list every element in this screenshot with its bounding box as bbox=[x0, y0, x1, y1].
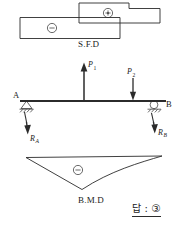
bmd-negative-area bbox=[26, 156, 162, 190]
reaction-a-label: R bbox=[29, 134, 35, 143]
load-p1-subscript: 1 bbox=[93, 65, 96, 71]
bmd-negative-sign bbox=[73, 165, 82, 174]
sfd-group: S.F.D bbox=[20, 3, 160, 49]
sfd-positive-block bbox=[79, 3, 160, 23]
support-b-roller bbox=[148, 101, 162, 113]
support-b-label: B bbox=[166, 99, 172, 109]
bmd-label: B.M.D bbox=[78, 195, 104, 205]
answer-separator: : bbox=[145, 203, 149, 214]
sfd-positive-sign bbox=[103, 8, 112, 17]
load-p2-subscript: 2 bbox=[132, 72, 135, 78]
support-a-pinned bbox=[20, 101, 34, 112]
load-p1-arrow bbox=[81, 63, 88, 101]
reaction-b-label: R bbox=[157, 128, 163, 137]
beam-diagram-figure: S.F.D A bbox=[0, 0, 194, 225]
load-p1-label: P bbox=[87, 60, 93, 69]
support-a-label: A bbox=[13, 90, 20, 100]
load-p2-label: P bbox=[126, 67, 132, 76]
reaction-a-subscript: A bbox=[35, 138, 40, 144]
answer-prefix: 답 bbox=[132, 203, 142, 214]
reaction-b-arrow bbox=[151, 113, 158, 134]
reaction-a-arrow bbox=[24, 112, 31, 135]
answer-note: 답:③ bbox=[132, 200, 161, 217]
sfd-negative-block bbox=[20, 18, 120, 39]
load-p2-arrow bbox=[130, 78, 136, 101]
sfd-negative-sign bbox=[47, 23, 56, 32]
figure-canvas: S.F.D A bbox=[0, 0, 194, 225]
bmd-group: B.M.D bbox=[26, 156, 162, 205]
beam-group: A B P 1 P 2 bbox=[13, 60, 172, 144]
sfd-label: S.F.D bbox=[78, 39, 100, 49]
answer-choice: ③ bbox=[151, 202, 161, 214]
reaction-b-subscript: B bbox=[164, 132, 168, 138]
